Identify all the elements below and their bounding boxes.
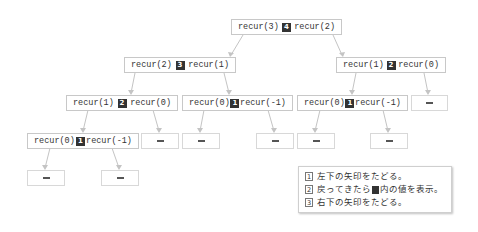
order-badge: 2 (387, 61, 396, 70)
order-badge: 1 (76, 137, 85, 146)
node-right-call: recur(2) (294, 22, 335, 32)
node-left-call: recur(0) (189, 98, 230, 108)
leaf-node (256, 133, 294, 149)
node-recur-0: recur(0) 1 recur(-1) (182, 95, 293, 111)
legend-item-3: 3 右下の矢印をたどる。 (305, 196, 445, 209)
legend-item-1: 1 左下の矢印をたどる。 (305, 170, 445, 183)
order-badge: 1 (345, 99, 354, 108)
legend-text: 右下の矢印をたどる。 (317, 196, 407, 209)
leaf-node (141, 133, 179, 149)
node-recur-1: recur(1) 2 recur(0) (66, 95, 178, 111)
leaf-node (411, 95, 448, 111)
node-recur-2: recur(2) 3 recur(1) (124, 57, 236, 73)
order-badge: 1 (230, 99, 239, 108)
node-right-call: recur(0) (130, 98, 171, 108)
node-right-call: recur(-1) (355, 98, 401, 108)
dash-icon (313, 140, 320, 141)
node-recur-1: recur(1) 2 recur(0) (336, 57, 446, 73)
node-recur-0: recur(0) 1 recur(-1) (27, 133, 139, 149)
dash-icon (272, 140, 279, 141)
legend-text: 戻ってきたら (317, 183, 371, 196)
node-recur-3: recur(3) 4 recur(2) (231, 19, 342, 35)
leaf-node (27, 170, 65, 186)
filled-box-icon (372, 186, 379, 194)
order-badge: 4 (282, 23, 291, 32)
leaf-node (182, 133, 220, 149)
node-left-call: recur(0) (304, 98, 345, 108)
dash-icon (386, 140, 393, 141)
leaf-node (297, 133, 335, 149)
order-badge: 2 (118, 99, 127, 108)
dash-icon (117, 177, 124, 178)
step-number: 1 (305, 172, 313, 181)
node-left-call: recur(1) (343, 60, 384, 70)
node-left-call: recur(0) (34, 136, 75, 146)
legend-text-after: 内の値を表示。 (380, 183, 443, 196)
node-recur-0: recur(0) 1 recur(-1) (297, 95, 408, 111)
legend-item-2: 2 戻ってきたら 内の値を表示。 (305, 183, 445, 196)
node-right-call: recur(-1) (240, 98, 286, 108)
legend-text: 左下の矢印をたどる。 (317, 170, 407, 183)
node-left-call: recur(3) (238, 22, 279, 32)
order-badge: 3 (176, 61, 185, 70)
dash-icon (198, 140, 205, 141)
step-number: 3 (305, 198, 313, 207)
node-right-call: recur(1) (188, 60, 229, 70)
leaf-node (101, 170, 139, 186)
node-right-call: recur(0) (398, 60, 439, 70)
legend-box: 1 左下の矢印をたどる。 2 戻ってきたら 内の値を表示。 3 右下の矢印をたど… (298, 166, 452, 213)
node-right-call: recur(-1) (86, 136, 132, 146)
edge-root-left (231, 35, 243, 55)
dash-icon (426, 102, 433, 103)
node-left-call: recur(2) (131, 60, 172, 70)
leaf-node (370, 133, 408, 149)
dash-icon (43, 177, 50, 178)
step-number: 2 (305, 185, 313, 194)
dash-icon (157, 140, 164, 141)
node-left-call: recur(1) (73, 98, 114, 108)
